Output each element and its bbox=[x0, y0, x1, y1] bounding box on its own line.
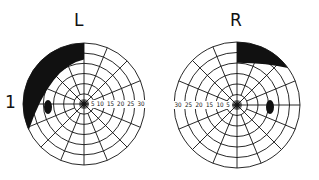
meridian-line bbox=[237, 105, 282, 150]
blind-spot bbox=[266, 100, 274, 114]
scale-label: 15 bbox=[206, 101, 214, 108]
left-visual-field: 51015202530 bbox=[23, 43, 147, 165]
scale-label: 30 bbox=[174, 101, 182, 108]
visual-field-figure: L R 1 51015202530 51015202530 bbox=[0, 0, 319, 180]
scale-label: 15 bbox=[107, 100, 115, 107]
meridian-line bbox=[192, 105, 237, 150]
meridian-line bbox=[237, 60, 282, 105]
scale-label: 25 bbox=[185, 101, 193, 108]
eccentricity-scale: 51015202530 bbox=[172, 101, 232, 109]
scale-label: 10 bbox=[97, 100, 105, 107]
scale-label: 20 bbox=[117, 100, 125, 107]
visual-field-charts: 51015202530 51015202530 bbox=[0, 0, 319, 180]
scale-label: 30 bbox=[137, 100, 145, 107]
eccentricity-scale: 51015202530 bbox=[89, 100, 147, 108]
right-visual-field: 51015202530 bbox=[172, 42, 300, 168]
scale-label: 20 bbox=[195, 101, 203, 108]
scale-label: 5 bbox=[226, 101, 230, 108]
meridian-line bbox=[192, 60, 237, 105]
scale-label: 5 bbox=[91, 100, 95, 107]
scale-label: 10 bbox=[216, 101, 224, 108]
meridian-line bbox=[84, 104, 127, 147]
blind-spot bbox=[44, 100, 52, 114]
meridian-line bbox=[84, 61, 127, 104]
scale-label: 25 bbox=[127, 100, 135, 107]
